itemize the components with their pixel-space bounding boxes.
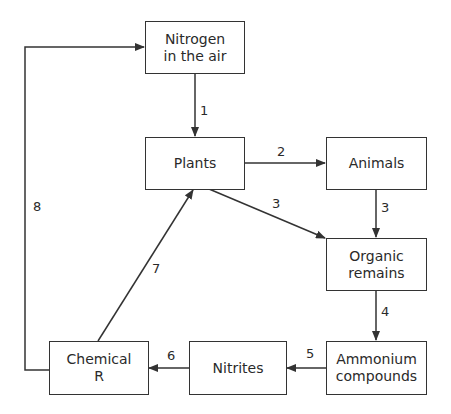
node-label: R <box>67 368 132 385</box>
node-label: remains <box>348 265 404 282</box>
edge-3a-arrow <box>209 189 325 238</box>
edge-8-arrow <box>25 47 144 370</box>
edge-label-5: 5 <box>306 347 314 361</box>
node-label: compounds <box>336 368 417 385</box>
edge-label-7: 7 <box>152 262 160 276</box>
node-nitrites: Nitrites <box>189 341 287 395</box>
node-plants: Plants <box>145 137 245 190</box>
node-ammonium-compounds: Ammoniumcompounds <box>326 341 427 395</box>
node-label: Nitrogen <box>164 31 227 48</box>
edge-7-arrow <box>98 190 193 341</box>
node-animals: Animals <box>326 137 427 190</box>
edge-label-4: 4 <box>381 305 389 319</box>
node-nitrogen-in-the-air: Nitrogenin the air <box>145 21 245 74</box>
node-label: Chemical <box>67 351 132 368</box>
node-label: Nitrites <box>213 360 264 377</box>
edge-label-3a: 3 <box>272 197 280 211</box>
edge-label-8: 8 <box>33 200 41 214</box>
node-organic-remains: Organicremains <box>326 238 427 291</box>
node-chemical-r: ChemicalR <box>49 341 149 395</box>
node-label: Ammonium <box>336 351 417 368</box>
node-label: Animals <box>349 155 405 172</box>
node-label: Plants <box>174 155 217 172</box>
edge-label-3b: 3 <box>381 201 389 215</box>
node-label: in the air <box>164 48 227 65</box>
edge-label-6: 6 <box>167 349 175 363</box>
edge-label-2: 2 <box>277 145 285 159</box>
node-label: Organic <box>348 248 404 265</box>
edge-label-1: 1 <box>200 104 208 118</box>
